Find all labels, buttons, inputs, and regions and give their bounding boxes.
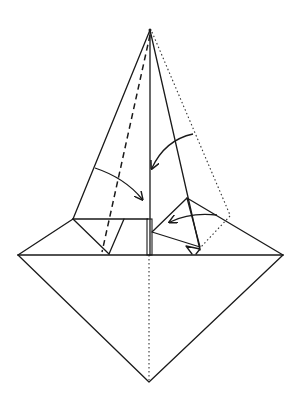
apex-point <box>149 29 152 32</box>
bottom-triangle <box>18 255 283 382</box>
right-hidden-edge <box>152 32 230 215</box>
fold-arrows <box>95 134 217 222</box>
right-flap <box>152 198 230 254</box>
origami-diagram <box>0 0 301 403</box>
left-flap <box>73 219 152 255</box>
left-fold-arrow <box>95 168 142 199</box>
upper-right-fold-arrow <box>152 134 193 168</box>
